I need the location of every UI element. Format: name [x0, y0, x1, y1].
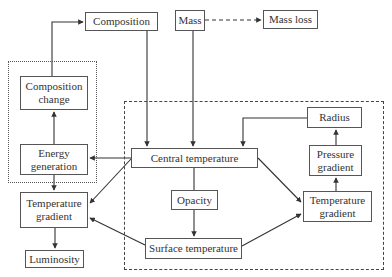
node-surface-temperature: Surface temperature [145, 238, 242, 259]
node-opacity: Opacity [171, 190, 218, 210]
node-mass: Mass [175, 10, 205, 31]
node-composition: Composition [85, 12, 158, 31]
node-energy-generation: Energy generation [20, 144, 88, 175]
node-central-temperature: Central temperature [131, 148, 258, 168]
node-luminosity: Luminosity [25, 250, 84, 268]
node-composition-change: Composition change [20, 76, 88, 110]
node-radius: Radius [307, 107, 362, 128]
node-temperature-gradient-right: Temperature gradient [303, 191, 372, 222]
node-temperature-gradient-left: Temperature gradient [20, 192, 88, 228]
node-pressure-gradient: Pressure gradient [309, 145, 362, 176]
node-mass-loss: Mass loss [263, 10, 318, 29]
